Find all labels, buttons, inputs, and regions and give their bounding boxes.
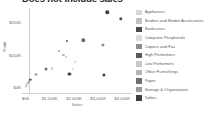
legend-item-label: Computer Peripherals [145,35,186,41]
legend-item[interactable]: Tables [136,94,212,103]
scatter-chart-panel: Does not include sales $0K$100K$200K Pro… [0,0,212,117]
data-point[interactable] [65,56,67,58]
legend-item[interactable]: Office Furnishings [136,68,212,77]
legend-item-label: Paper [145,78,156,84]
legend-item[interactable]: Computer Peripherals [136,34,212,43]
data-point[interactable] [101,43,104,46]
plot-area[interactable] [22,8,132,94]
legend-color-swatch [136,53,142,59]
legend-item[interactable]: Low Performers [136,60,212,69]
legend-color-swatch [136,10,142,16]
y-axis-title: Profit [2,33,7,61]
legend-item[interactable]: Copiers and Fax [136,42,212,51]
data-point[interactable] [82,38,85,41]
legend-color-swatch [136,18,142,24]
legend-item-label: Low Performers [145,61,175,67]
legend-item-label: Appliances [145,9,166,15]
legend-item-label: Binders and Binder Accessories [145,18,204,24]
legend-item[interactable]: Binders and Binder Accessories [136,17,212,26]
legend-color-swatch [136,87,142,93]
y-tick-label: $0K [1,85,21,90]
legend-item[interactable]: Appliances [136,8,212,17]
legend-item-label: Storage & Organization [145,87,189,93]
x-axis-title: Sales [22,102,132,108]
legend-item[interactable]: Storage & Organization [136,85,212,94]
legend-item-label: Bookcases [145,26,165,32]
data-point[interactable] [68,73,71,76]
legend-item-label: High Performers [145,52,175,58]
legend-color-swatch [136,70,142,76]
data-point[interactable] [66,40,68,42]
legend-color-swatch [136,78,142,84]
legend-color-swatch [136,61,142,67]
legend-item[interactable]: High Performers [136,51,212,60]
data-point[interactable] [119,17,122,20]
legend[interactable]: AppliancesBinders and Binder Accessories… [136,8,212,103]
data-point[interactable] [34,73,37,76]
data-point[interactable] [72,68,74,70]
data-point[interactable] [51,67,53,69]
data-point[interactable] [102,73,105,76]
x-axis-line [22,93,132,94]
y-tick-label: $200K [1,20,21,25]
legend-item[interactable]: Bookcases [136,25,212,34]
legend-item-label: Office Furnishings [145,69,179,75]
legend-color-swatch [136,95,142,101]
legend-item-label: Copiers and Fax [145,44,176,50]
data-point[interactable] [106,11,109,14]
chart-title: Does not include sales [22,0,132,4]
legend-item[interactable]: Paper [136,77,212,86]
legend-item-label: Tables [145,95,157,101]
data-point[interactable] [44,68,47,71]
legend-color-swatch [136,35,142,41]
data-point[interactable] [74,60,76,62]
legend-color-swatch [136,44,142,50]
data-point[interactable] [57,50,59,52]
plot-canvas[interactable] [22,8,132,94]
legend-color-swatch [136,27,142,33]
